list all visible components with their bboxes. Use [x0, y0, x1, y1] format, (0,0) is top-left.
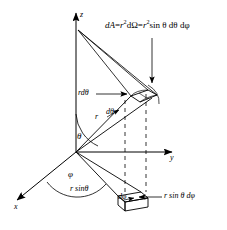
radius-line-r — [76, 96, 131, 152]
equation-term1-tail: dΩ — [127, 20, 138, 30]
x-axis-label: x — [14, 203, 18, 211]
r-dtheta-label: rdθ — [78, 89, 89, 97]
phi-angle-label: φ — [68, 170, 73, 179]
r-sin-theta-d-phi-label: r sin θ dφ — [164, 192, 195, 200]
r-sin-theta-label: r sinθ — [70, 185, 88, 193]
spherical-coordinates-figure: z y x θ φ dA=r2dΩ=r2sin θ dθ dφ rdθ r dθ… — [0, 0, 227, 230]
theta-angle-label: θ — [77, 132, 81, 141]
cone-lines-group — [78, 30, 157, 96]
patch-inner-rib — [139, 93, 148, 99]
z-axis-label: z — [80, 11, 83, 19]
sphere-arc-outer — [148, 85, 159, 104]
base-side-face — [125, 198, 148, 211]
equation-lhs: dA — [105, 20, 115, 30]
equation-term2-tail: sin θ dθ dφ — [150, 20, 190, 30]
area-element-equation: dA=r2dΩ=r2sin θ dθ dφ — [105, 21, 190, 30]
y-axis-label: y — [170, 154, 174, 162]
r-label: r — [95, 113, 98, 121]
d-phi-lower-label: dφ — [118, 193, 126, 201]
annotation-leaders — [96, 38, 162, 200]
radial-lines-group — [76, 96, 152, 196]
radius-line-r-dtheta — [76, 98, 152, 152]
cone-edge-lower — [78, 30, 131, 96]
cone-edge-outer — [78, 30, 157, 95]
d-theta-inner-label: dθ — [106, 108, 114, 116]
